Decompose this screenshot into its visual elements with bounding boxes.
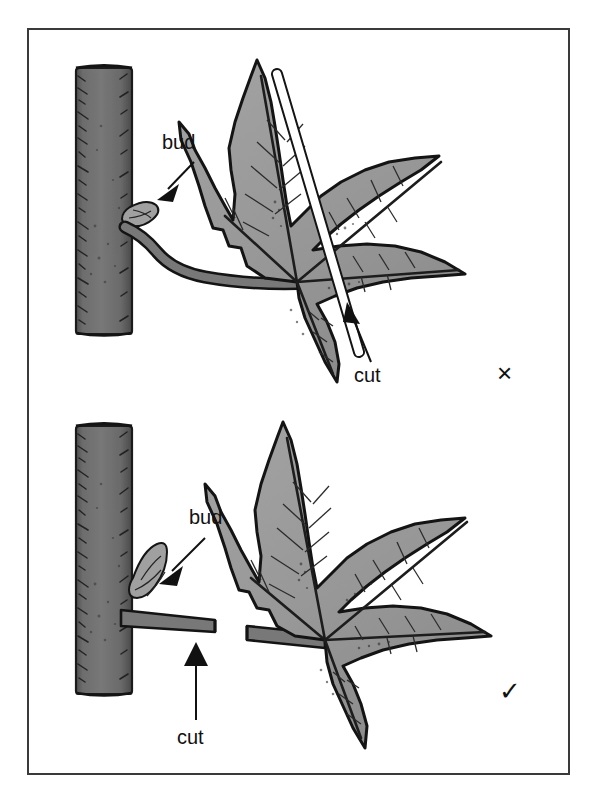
axillary-bud [129, 543, 167, 598]
cut-arrow-head [184, 642, 208, 666]
branch-trunk [76, 424, 132, 696]
bud-label: bud [189, 506, 222, 528]
cut-label: cut [177, 726, 204, 748]
bud-arrow-shaft [168, 162, 194, 189]
maple-leaf [205, 422, 491, 748]
correct-cut-illustration: bud cut ✓ [29, 404, 568, 777]
figure-root: bud cut × [0, 0, 589, 800]
cut-label: cut [354, 364, 381, 386]
bud-label: bud [162, 131, 195, 153]
figure-frame: bud cut × [27, 28, 570, 775]
bud-arrow-head [157, 184, 179, 202]
petiole-stub [121, 610, 215, 632]
branch-trunk [76, 66, 132, 336]
verdict-cross-mark: × [497, 358, 512, 388]
cut-annotation: cut [177, 642, 208, 748]
panel-incorrect-cut: bud cut × [29, 30, 568, 404]
incorrect-cut-illustration: bud cut × [29, 30, 568, 404]
bud-annotation: bud [157, 131, 195, 202]
panel-correct-cut: bud cut ✓ [29, 404, 568, 777]
bud-annotation: bud [159, 506, 222, 586]
bud-arrow-shaft [172, 538, 205, 571]
verdict-check-mark: ✓ [499, 676, 521, 706]
